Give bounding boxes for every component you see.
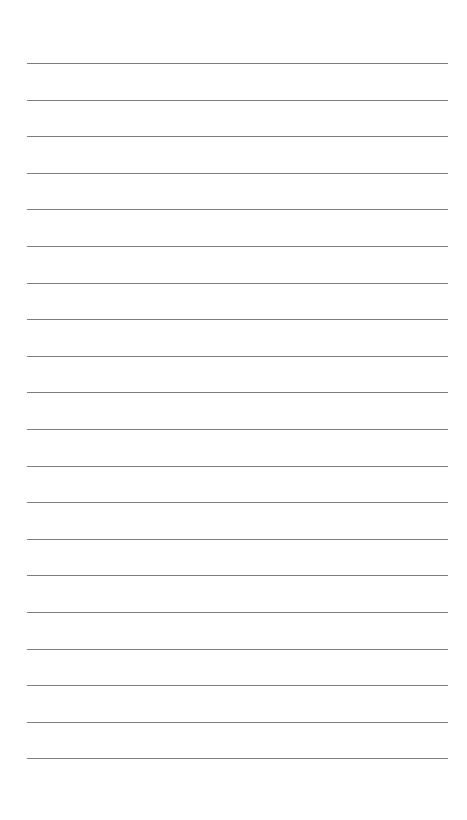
ruled-line [27,283,448,284]
ruled-line [27,100,448,101]
ruled-line [27,502,448,503]
ruled-line [27,539,448,540]
ruled-line [27,429,448,430]
ruled-line [27,649,448,650]
ruled-line [27,209,448,210]
ruled-line [27,466,448,467]
ruled-line [27,136,448,137]
ruled-line [27,575,448,576]
ruled-line [27,612,448,613]
ruled-line [27,722,448,723]
ruled-line [27,758,448,759]
ruled-line [27,392,448,393]
ruled-line [27,319,448,320]
ruled-line [27,356,448,357]
ruled-line [27,63,448,64]
lined-paper-page [0,0,467,820]
ruled-line [27,173,448,174]
ruled-line [27,246,448,247]
ruled-line [27,685,448,686]
